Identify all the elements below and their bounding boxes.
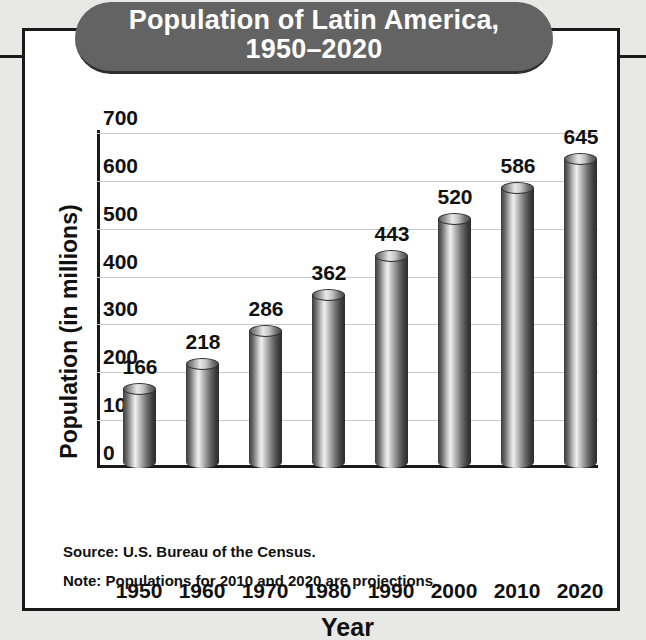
bar-top-ellipse (564, 153, 597, 165)
bar-value-label: 645 (546, 125, 616, 149)
bar: 645 (564, 159, 597, 468)
bar-value-label: 520 (420, 185, 490, 209)
bar-value-label: 586 (483, 154, 553, 178)
bar-top-ellipse (249, 325, 282, 337)
bar-value-label: 218 (168, 330, 238, 354)
bar-top-ellipse (312, 289, 345, 301)
bar-value-label: 362 (294, 261, 364, 285)
bar: 286 (249, 331, 282, 468)
bar-value-label: 166 (105, 355, 175, 379)
bar: 586 (501, 188, 534, 468)
bar: 362 (312, 295, 345, 468)
chart-title-banner: Population of Latin America, 1950–2020 (75, 2, 553, 74)
footnotes: Source: U.S. Bureau of the Census.Note: … (63, 543, 583, 601)
gridline (97, 133, 598, 134)
y-axis-tick-label: 300 (103, 297, 138, 323)
bar-value-label: 286 (231, 297, 301, 321)
bar: 520 (438, 219, 471, 468)
footnote: Note: Populations for 2010 and 2020 are … (63, 572, 583, 589)
bar: 218 (186, 364, 219, 468)
y-axis-tick-label: 400 (103, 250, 138, 276)
y-axis-tick-label: 700 (103, 106, 138, 132)
frame-left-nub (0, 55, 24, 58)
bar-top-ellipse (375, 250, 408, 262)
y-axis-tick-label: 0 (103, 441, 115, 467)
bar-top-ellipse (123, 383, 156, 395)
footnote: Source: U.S. Bureau of the Census. (63, 543, 583, 560)
frame-right-nub (620, 55, 646, 58)
bar-top-ellipse (438, 213, 471, 225)
bar-chart: Population (in millions) 010020030040050… (22, 28, 620, 611)
bar: 443 (375, 256, 408, 468)
bar-top-ellipse (186, 358, 219, 370)
chart-title-line2: 1950–2020 (246, 34, 383, 64)
plot-area: 0100200300400500600700 16621828636244352… (97, 133, 598, 468)
bar: 166 (123, 389, 156, 468)
bar-value-label: 443 (357, 222, 427, 246)
chart-title: Population of Latin America, 1950–2020 (129, 6, 500, 67)
y-axis-tick-label: 500 (103, 202, 138, 228)
x-axis-label: Year (97, 613, 598, 640)
y-axis-label: Population (in millions) (56, 167, 83, 497)
chart-title-line1: Population of Latin America, (129, 5, 500, 35)
bar-top-ellipse (501, 182, 534, 194)
y-axis-tick-label: 600 (103, 154, 138, 180)
